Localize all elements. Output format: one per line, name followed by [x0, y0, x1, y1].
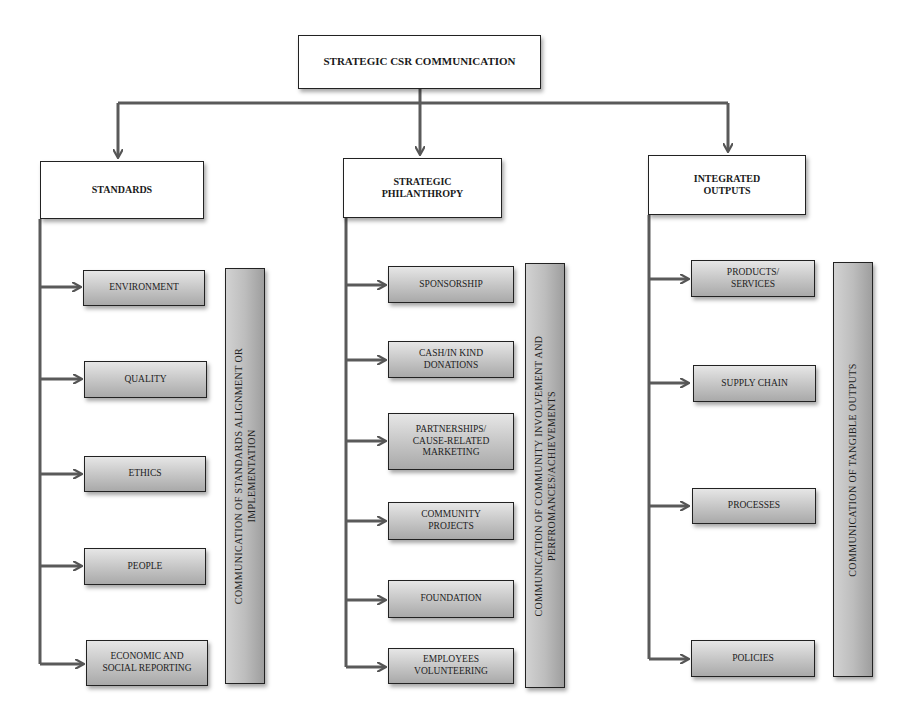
- item-label: PRODUCTS/ SERVICES: [720, 267, 786, 291]
- side-bar-tangible-outputs-communication: COMMUNICATION OF TANGIBLE OUTPUTS: [833, 262, 873, 677]
- item-people: PEOPLE: [84, 548, 206, 585]
- category-label: INTEGRATED OUTPUTS: [679, 173, 775, 198]
- category-integrated-outputs: INTEGRATED OUTPUTS: [648, 155, 806, 215]
- item-label: POLICIES: [732, 653, 774, 665]
- item-label: SPONSORSHIP: [419, 279, 482, 291]
- side-bar-text: COMMUNICATION OF COMMUNITY INVOLVEMENT A…: [533, 335, 558, 616]
- item-label: ENVIRONMENT: [109, 282, 179, 294]
- item-cash-in-kind-donations: CASH/IN KIND DONATIONS: [388, 341, 514, 378]
- item-products-services: PRODUCTS/ SERVICES: [691, 260, 815, 297]
- item-economic-and-social-reporting: ECONOMIC AND SOCIAL REPORTING: [86, 640, 208, 686]
- item-label: COMMUNITY PROJECTS: [407, 509, 495, 533]
- side-bar-text: COMMUNICATION OF STANDARDS ALIGNMENT OR …: [233, 348, 258, 604]
- side-bar-standards-communication: COMMUNICATION OF STANDARDS ALIGNMENT OR …: [225, 268, 265, 684]
- item-label: PROCESSES: [728, 500, 780, 512]
- side-bar-line-2: PERFROMANCES/ACHIEVEMENTS: [545, 335, 558, 616]
- item-label: FOUNDATION: [420, 593, 481, 605]
- item-employees-volunteering: EMPLOYEES VOLUNTEERING: [388, 648, 514, 684]
- item-foundation: FOUNDATION: [388, 580, 514, 618]
- item-label: PARTNERSHIPS/ CAUSE-RELATED MARKETING: [403, 424, 499, 460]
- item-policies: POLICIES: [691, 640, 815, 677]
- item-label: QUALITY: [124, 374, 166, 386]
- item-community-projects: COMMUNITY PROJECTS: [388, 502, 514, 540]
- item-processes: PROCESSES: [692, 488, 816, 524]
- item-ethics: ETHICS: [84, 456, 206, 492]
- side-bar-line-2: IMPLEMENTATION: [245, 348, 258, 604]
- root-node-label: STRATEGIC CSR COMMUNICATION: [323, 55, 515, 69]
- item-supply-chain: SUPPLY CHAIN: [693, 365, 816, 402]
- item-label: CASH/IN KIND DONATIONS: [403, 348, 499, 372]
- item-sponsorship: SPONSORSHIP: [388, 266, 514, 303]
- side-bar-line-1: COMMUNICATION OF COMMUNITY INVOLVEMENT A…: [533, 335, 546, 616]
- item-partnerships-cause-related-marketing: PARTNERSHIPS/ CAUSE-RELATED MARKETING: [388, 413, 514, 470]
- item-label: PEOPLE: [128, 561, 163, 573]
- side-bar-community-involvement-communication: COMMUNICATION OF COMMUNITY INVOLVEMENT A…: [525, 263, 565, 688]
- category-label: STANDARDS: [92, 184, 152, 197]
- item-label: ETHICS: [128, 468, 161, 480]
- item-label: EMPLOYEES VOLUNTEERING: [407, 654, 495, 678]
- root-node-strategic-csr-communication: STRATEGIC CSR COMMUNICATION: [298, 35, 541, 89]
- item-label: ECONOMIC AND SOCIAL REPORTING: [97, 651, 197, 675]
- category-strategic-philanthropy: STRATEGIC PHILANTHROPY: [343, 158, 502, 218]
- item-quality: QUALITY: [84, 361, 207, 398]
- item-environment: ENVIRONMENT: [83, 270, 205, 306]
- item-label: SUPPLY CHAIN: [721, 378, 788, 390]
- category-standards: STANDARDS: [40, 161, 204, 219]
- side-bar-text: COMMUNICATION OF TANGIBLE OUTPUTS: [847, 363, 860, 577]
- side-bar-line-1: COMMUNICATION OF STANDARDS ALIGNMENT OR: [233, 348, 246, 604]
- side-bar-line-1: COMMUNICATION OF TANGIBLE OUTPUTS: [847, 363, 860, 577]
- category-label: STRATEGIC PHILANTHROPY: [366, 176, 479, 201]
